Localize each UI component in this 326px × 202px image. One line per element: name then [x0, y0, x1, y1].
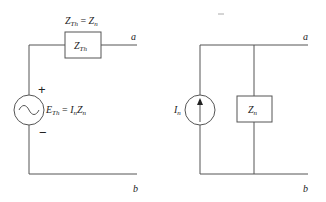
thevenin-circuit: ZTh ZTh = Zn + − ETh = InZn a b	[14, 15, 138, 194]
terminal-a-label: a	[303, 31, 308, 42]
terminal-b-label: b	[303, 183, 308, 194]
source-equation: ETh = InZn	[45, 104, 87, 117]
sine-wave-icon	[19, 106, 39, 115]
terminal-b-label: b	[133, 183, 138, 194]
plus-sign: +	[38, 82, 46, 97]
current-source-label: In	[173, 104, 181, 117]
minus-sign: −	[39, 125, 47, 140]
impedance-equation: ZTh = Zn	[65, 15, 98, 28]
terminal-a-label: a	[131, 31, 136, 42]
circuit-diagram: ZTh ZTh = Zn + − ETh = InZn a b In	[0, 0, 326, 202]
arrowhead-icon	[197, 98, 203, 105]
norton-circuit: In Zn a b	[173, 14, 308, 194]
